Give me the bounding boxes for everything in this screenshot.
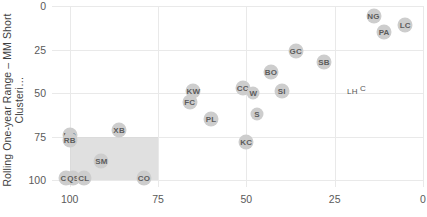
- data-point-ng[interactable]: NG: [366, 9, 381, 24]
- y-tick-label: 25: [8, 44, 46, 56]
- gridline-vertical: [335, 6, 336, 187]
- data-point-lh[interactable]: LH: [347, 87, 358, 96]
- data-point-c[interactable]: C: [360, 83, 366, 92]
- gridline-horizontal: [52, 6, 423, 7]
- y-axis-title: Rolling One-year Range – MM Short Cluste…: [0, 0, 26, 200]
- plot-area: NGLCPAGCSBBOCCWSILHCKWFCSPLKCXBHORBSMCTQ…: [52, 6, 423, 187]
- data-point-fc[interactable]: FC: [182, 94, 197, 109]
- scatter-chart: Rolling One-year Range – MM Short Cluste…: [0, 0, 427, 217]
- data-point-sm[interactable]: SM: [94, 153, 109, 168]
- data-point-xb[interactable]: XB: [112, 122, 127, 137]
- data-point-si[interactable]: SI: [274, 84, 289, 99]
- data-point-co[interactable]: CO: [136, 171, 151, 186]
- gridline-horizontal: [52, 180, 423, 181]
- gridline-vertical: [158, 6, 159, 187]
- y-tick-label: 100: [8, 174, 46, 186]
- data-point-sb[interactable]: SB: [317, 54, 332, 69]
- x-tick-label: 75: [152, 193, 164, 205]
- y-tick-label: 75: [8, 131, 46, 143]
- x-tick-label: 0: [420, 193, 426, 205]
- x-tick-label: 25: [329, 193, 341, 205]
- x-tick-label: 100: [61, 193, 79, 205]
- data-point-s[interactable]: S: [250, 107, 263, 120]
- y-tick-label: 50: [8, 87, 46, 99]
- x-tick-label: 50: [240, 193, 252, 205]
- data-point-w[interactable]: W: [247, 87, 260, 100]
- gridline-horizontal: [52, 50, 423, 51]
- data-point-rb[interactable]: RB: [62, 133, 77, 148]
- data-point-bo[interactable]: BO: [264, 65, 279, 80]
- data-point-pa[interactable]: PA: [377, 25, 392, 40]
- y-tick-label: 0: [8, 0, 46, 12]
- data-point-gc[interactable]: GC: [288, 44, 303, 59]
- data-point-cl[interactable]: CL: [76, 171, 91, 186]
- data-point-pl[interactable]: PL: [204, 112, 219, 127]
- gridline-vertical: [423, 6, 424, 187]
- data-point-lc[interactable]: LC: [398, 18, 413, 33]
- data-point-kc[interactable]: KC: [239, 134, 254, 149]
